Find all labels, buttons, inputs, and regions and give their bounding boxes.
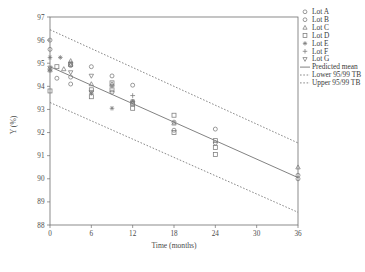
y-axis-title: Y (%) [9,115,18,134]
legend-label-upper-95-99-tb: Upper 95/99 TB [312,78,360,87]
x-tick-label: 12 [129,230,137,238]
y-tick-label: 96 [37,37,45,45]
x-tick-label: 6 [90,230,94,238]
chart-screenshot: 88899091929394959697 061218243036 Y (%) … [0,0,365,272]
y-tick-label: 90 [37,175,45,183]
x-tick-label: 30 [253,230,261,238]
y-tick-label: 88 [37,222,45,230]
chart-background [0,0,365,272]
y-tick-label: 89 [37,198,45,206]
x-axis-title: Time (months) [151,241,197,250]
scatter-chart: 88899091929394959697 061218243036 Y (%) … [0,0,365,272]
y-tick-label: 91 [37,152,45,160]
x-tick-label: 24 [212,230,220,238]
y-tick-label: 97 [37,14,45,22]
x-tick-label: 18 [170,230,178,238]
x-tick-label: 0 [48,230,52,238]
x-tick-label: 36 [294,230,302,238]
y-tick-label: 95 [37,60,45,68]
y-tick-label: 92 [37,129,45,137]
y-tick-label: 93 [37,106,45,114]
y-tick-label: 94 [37,83,45,91]
